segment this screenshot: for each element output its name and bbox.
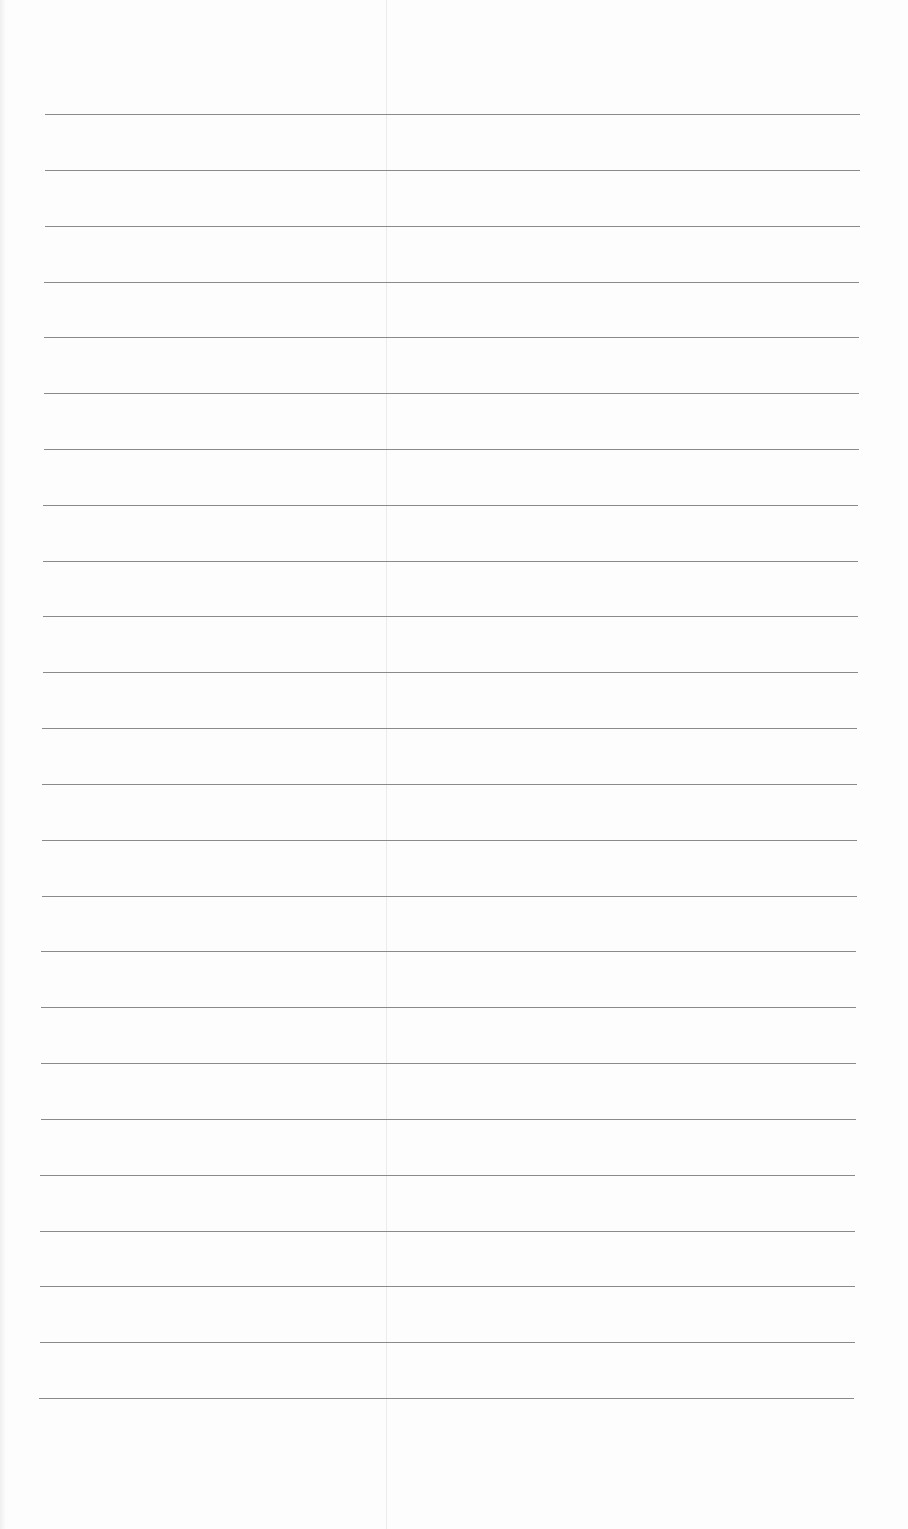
paper-edge-shadow — [0, 0, 6, 1529]
ruled-line — [43, 672, 858, 673]
ruled-line — [43, 616, 858, 617]
paper-sheet — [0, 0, 908, 1529]
ruled-line — [41, 1119, 856, 1120]
ruled-line — [45, 114, 860, 115]
ruled-line — [45, 226, 860, 227]
ruled-line — [40, 1342, 855, 1343]
ruled-line — [43, 561, 858, 562]
ruled-line — [44, 393, 859, 394]
ruled-line — [44, 337, 859, 338]
ruled-line — [42, 784, 857, 785]
ruled-line — [44, 282, 859, 283]
ruled-line — [42, 840, 857, 841]
ruled-line — [41, 1007, 856, 1008]
ruled-line — [40, 1286, 855, 1287]
ruled-line — [40, 1231, 855, 1232]
ruled-line — [45, 170, 860, 171]
ruled-line — [41, 1063, 856, 1064]
ruled-line — [41, 951, 856, 952]
center-fold — [386, 0, 387, 1529]
ruled-line — [42, 896, 857, 897]
ruled-line — [40, 1175, 855, 1176]
ruled-line — [44, 449, 859, 450]
ruled-line — [42, 728, 857, 729]
ruled-line — [39, 1398, 854, 1399]
ruled-line — [43, 505, 858, 506]
